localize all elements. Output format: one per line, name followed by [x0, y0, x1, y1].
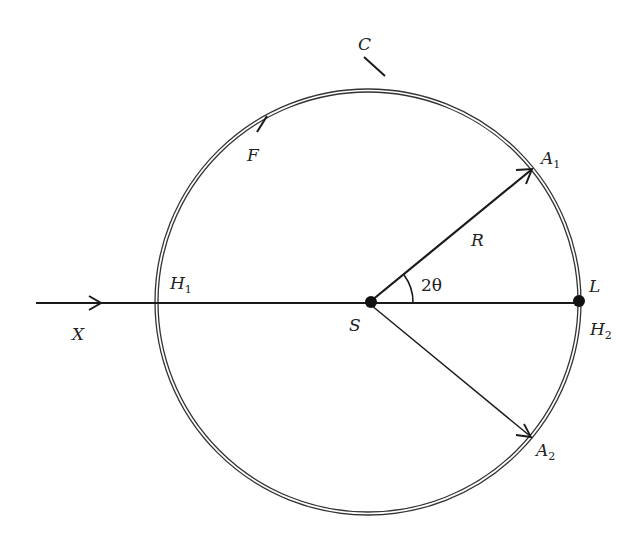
point-l [573, 295, 585, 307]
label-c: C [358, 34, 371, 54]
label-r: R [470, 230, 484, 250]
label-h1: H1 [169, 273, 192, 296]
line-s-to-a2 [371, 305, 530, 436]
label-a1: A1 [539, 148, 560, 171]
angle-arc [404, 275, 413, 303]
diagram-canvas: C F A1 R 2θ S L H2 H1 X A2 [0, 0, 637, 545]
label-a2: A2 [534, 440, 555, 463]
label-f: F [246, 145, 260, 165]
point-s [365, 296, 377, 308]
label-x: X [70, 324, 85, 344]
label-angle-2theta: 2θ [421, 275, 442, 295]
radius-r-to-a1 [371, 170, 531, 301]
c-pointer-tick [364, 57, 385, 76]
label-s: S [349, 315, 361, 335]
f-pointer-tick [257, 116, 267, 132]
label-h2: H2 [589, 319, 612, 342]
label-l: L [588, 276, 600, 296]
